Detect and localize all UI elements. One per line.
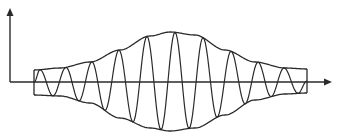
carrier-wave xyxy=(34,32,307,129)
x-axis-arrow-icon xyxy=(324,79,332,86)
y-axis xyxy=(7,8,14,82)
y-axis-arrow-icon xyxy=(7,8,14,16)
modulated-wave-diagram xyxy=(0,0,339,140)
diagram-canvas xyxy=(0,0,339,140)
lower-envelope xyxy=(34,93,307,131)
